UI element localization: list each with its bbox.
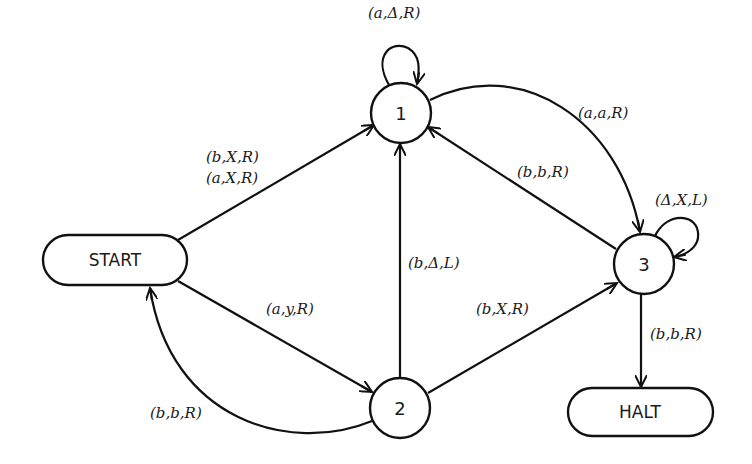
state-3: 3 — [614, 234, 674, 294]
start-node: START — [43, 235, 187, 285]
label-3-to-halt: (b,b,R) — [650, 325, 702, 343]
turing-machine-diagram: 1 2 3 START HALT (a,Δ,R) (b,X,R) (a,X,R)… — [0, 0, 752, 464]
label-start-to-1-line1: (b,X,R) — [206, 148, 259, 166]
label-start-to-2: (a,y,R) — [266, 300, 314, 318]
edge-3-to-1 — [428, 127, 616, 249]
label-loop-3: (Δ,X,L) — [655, 191, 708, 209]
label-1-to-3: (a,a,R) — [578, 104, 629, 122]
label-start-to-1-line2: (a,X,R) — [206, 169, 258, 187]
label-2-to-1: (b,Δ,L) — [408, 254, 460, 272]
label-3-to-1: (b,b,R) — [517, 163, 569, 181]
state-1: 1 — [371, 83, 431, 143]
state-2-label: 2 — [394, 398, 405, 419]
label-2-to-start: (b,b,R) — [150, 404, 202, 422]
edge-loop-1 — [383, 46, 419, 85]
halt-label: HALT — [619, 402, 662, 422]
state-3-label: 3 — [638, 254, 649, 275]
state-2: 2 — [370, 378, 430, 438]
start-label: START — [89, 250, 142, 270]
edge-start-to-2 — [178, 281, 372, 392]
label-loop-1: (a,Δ,R) — [368, 4, 420, 22]
halt-node: HALT — [568, 388, 713, 436]
state-1-label: 1 — [395, 103, 406, 124]
label-2-to-3: (b,X,R) — [476, 300, 529, 318]
